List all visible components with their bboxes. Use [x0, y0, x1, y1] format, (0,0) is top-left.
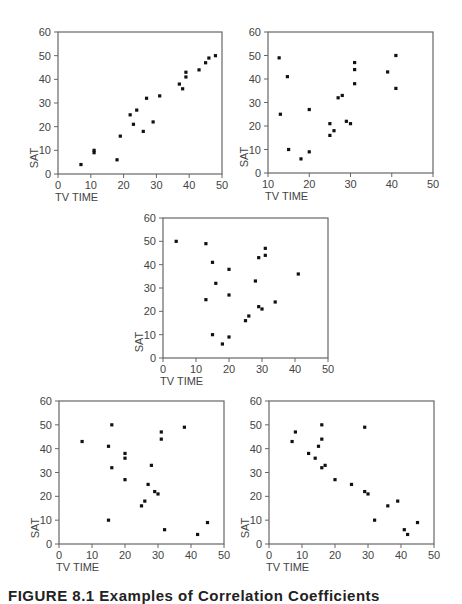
x-tick-label: 0 [266, 549, 272, 561]
data-point [196, 533, 199, 536]
data-point [320, 423, 323, 426]
data-point [147, 483, 150, 486]
y-axis-label: SAT [238, 146, 250, 167]
x-tick-label: 10 [296, 549, 308, 561]
data-point [197, 68, 200, 71]
y-tick-label: 50 [250, 419, 262, 431]
x-tick-label: 50 [216, 179, 228, 191]
data-point [204, 242, 207, 245]
data-point [184, 71, 187, 74]
x-tick-label: 30 [150, 179, 162, 191]
data-point [363, 490, 366, 493]
data-point [278, 56, 281, 59]
data-point [297, 272, 300, 275]
x-tick-label: 20 [303, 178, 315, 190]
data-point [264, 247, 267, 250]
data-point [211, 333, 214, 336]
data-point [150, 464, 153, 467]
y-tick-label: 20 [249, 120, 261, 132]
data-point [160, 430, 163, 433]
x-tick-label: 40 [395, 549, 407, 561]
data-point [214, 54, 217, 57]
y-tick-label: 30 [40, 467, 52, 479]
y-tick-label: 60 [40, 395, 52, 407]
data-point [349, 122, 352, 125]
y-tick-label: 30 [249, 97, 261, 109]
y-tick-label: 40 [39, 73, 51, 85]
plot-frame [59, 401, 224, 544]
scatterplot-2: 01020304050601020304050TV TIMESAT [238, 26, 439, 202]
data-point [79, 163, 82, 166]
data-point [332, 129, 335, 132]
y-tick-label: 20 [250, 490, 262, 502]
x-tick-label: 0 [56, 549, 62, 561]
y-tick-label: 20 [39, 121, 51, 133]
y-tick-label: 0 [256, 538, 262, 550]
data-point [257, 305, 260, 308]
data-point [403, 528, 406, 531]
y-tick-label: 20 [144, 305, 156, 317]
y-axis-label: SAT [28, 147, 40, 168]
data-point [92, 149, 95, 152]
x-tick-label: 40 [386, 178, 398, 190]
y-tick-label: 40 [40, 443, 52, 455]
scatterplot-1: 010203040506001020304050TV TIMESAT [28, 26, 228, 203]
data-point [264, 254, 267, 257]
data-point [394, 54, 397, 57]
data-point [294, 430, 297, 433]
data-point [204, 61, 207, 64]
data-point [129, 113, 132, 116]
data-point [254, 279, 257, 282]
y-axis-label: SAT [29, 517, 41, 538]
data-point [260, 307, 263, 310]
y-tick-label: 0 [46, 538, 52, 550]
data-point [308, 108, 311, 111]
figure-caption: FIGURE 8.1 Examples of Correlation Coeff… [8, 587, 380, 604]
data-point [320, 438, 323, 441]
data-point [299, 157, 302, 160]
y-tick-label: 0 [45, 168, 51, 180]
y-axis-label: SAT [133, 331, 145, 352]
x-axis-label: TV TIME [56, 561, 99, 573]
data-point [317, 445, 320, 448]
data-point [307, 452, 310, 455]
data-point [143, 500, 146, 503]
x-axis-label: TV TIME [265, 190, 308, 202]
y-tick-label: 20 [40, 490, 52, 502]
data-point [406, 533, 409, 536]
data-point [353, 68, 356, 71]
data-point [366, 492, 369, 495]
data-point [227, 293, 230, 296]
y-tick-label: 40 [249, 73, 261, 85]
data-point [373, 519, 376, 522]
data-point [328, 122, 331, 125]
x-axis-label: TV TIME [55, 191, 98, 203]
data-point [211, 261, 214, 264]
data-point [153, 490, 156, 493]
data-point [244, 319, 247, 322]
x-tick-label: 50 [428, 549, 440, 561]
scatterplot-5: 010203040506001020304050TV TIMESAT [239, 395, 440, 573]
y-tick-label: 30 [250, 467, 262, 479]
y-tick-label: 0 [255, 167, 261, 179]
y-tick-label: 10 [144, 329, 156, 341]
data-point [145, 97, 148, 100]
data-point [353, 82, 356, 85]
y-tick-label: 30 [39, 97, 51, 109]
data-point [328, 134, 331, 137]
data-point [123, 457, 126, 460]
data-point [156, 492, 159, 495]
y-tick-label: 10 [39, 144, 51, 156]
data-point [341, 94, 344, 97]
data-point [204, 298, 207, 301]
data-point [286, 75, 289, 78]
y-tick-label: 50 [39, 50, 51, 62]
data-point [81, 440, 84, 443]
y-tick-label: 50 [144, 235, 156, 247]
y-tick-label: 50 [40, 419, 52, 431]
data-point [396, 500, 399, 503]
x-tick-label: 50 [427, 178, 439, 190]
data-point [279, 113, 282, 116]
data-point [274, 300, 277, 303]
y-tick-label: 60 [249, 26, 261, 38]
